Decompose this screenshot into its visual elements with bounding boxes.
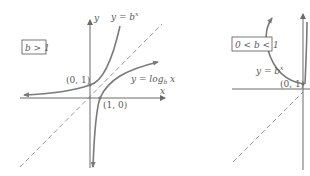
- y-axis-label: y: [93, 13, 100, 23]
- condition-label: b > 1: [25, 43, 50, 53]
- condition-label: 0 < b < 1: [235, 40, 279, 50]
- right-graph: 0 < b < 1 y = bx (0, 1): [232, 14, 310, 170]
- log-curve-label: y = logb x: [130, 74, 175, 85]
- point-exp-label: (0, 1): [66, 75, 90, 85]
- exp-curve-label: y = bx: [110, 10, 139, 22]
- point-log-marker: [98, 96, 101, 99]
- x-axis-label: x: [160, 86, 165, 96]
- identity-line-dashed: [233, 92, 303, 162]
- log-curve-lower: [93, 98, 100, 167]
- log-curve-partial: [305, 22, 307, 84]
- left-graph: b > 1 y x y = bx y = logb x (0, 1) (1, 0…: [20, 10, 175, 168]
- point-exp-label: (0, 1): [280, 79, 304, 89]
- exp-curve-label: y = bx: [255, 64, 284, 76]
- exponential-log-diagram: b > 1 y x y = bx y = logb x (0, 1) (1, 0…: [0, 0, 310, 176]
- point-log-label: (1, 0): [103, 100, 127, 110]
